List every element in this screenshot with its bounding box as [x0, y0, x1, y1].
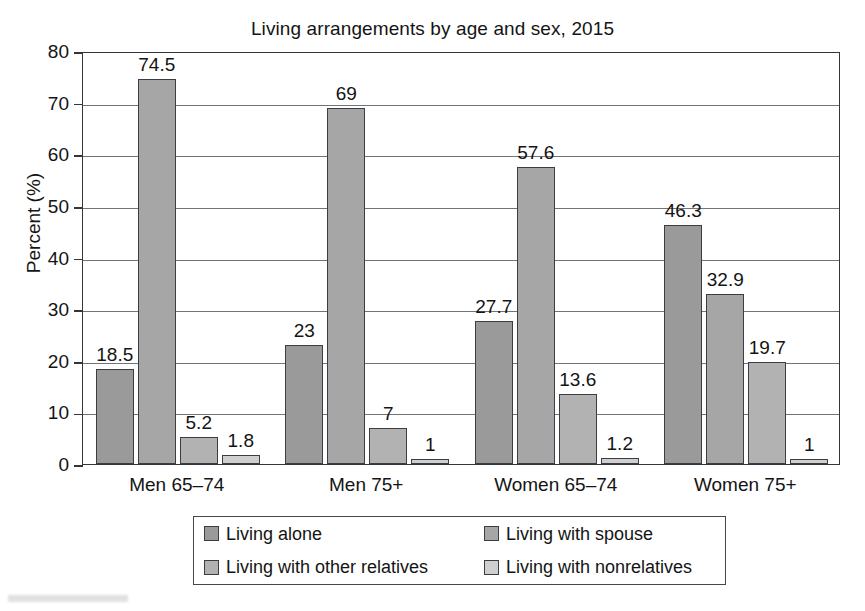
bar[interactable] [96, 369, 134, 465]
bar-value-label: 32.9 [707, 269, 744, 291]
bar-group-bars: 18.574.55.21.8 [96, 53, 260, 464]
bar-slot: 1.2 [601, 53, 639, 464]
legend-item-living-with-other-relatives[interactable]: Living with other relatives [204, 558, 484, 576]
legend-label-living-with-nonrelatives: Living with nonrelatives [506, 558, 692, 576]
bar-group: 236971 [285, 53, 449, 464]
bar-value-label: 18.5 [96, 344, 133, 366]
bar-slot: 74.5 [138, 53, 176, 464]
bar-slot: 27.7 [475, 53, 513, 464]
bar-group-bars: 236971 [285, 53, 449, 464]
bar-value-label: 1.2 [607, 433, 633, 455]
bar-value-label: 1 [804, 434, 815, 456]
legend-item-living-alone[interactable]: Living alone [204, 525, 484, 543]
bar[interactable] [369, 428, 407, 464]
bar-value-label: 19.7 [749, 337, 786, 359]
bar-group-bars: 46.332.919.71 [664, 53, 828, 464]
bar[interactable] [790, 459, 828, 464]
bar-slot: 19.7 [748, 53, 786, 464]
y-tick-label: 0 [13, 454, 69, 476]
plot-area: 0102030405060708018.574.55.21.823697127.… [82, 52, 840, 465]
x-category-label: Men 65–74 [82, 474, 272, 496]
scan-artifact [8, 595, 128, 602]
bar-slot: 23 [285, 53, 323, 464]
y-tick-label: 80 [13, 41, 69, 63]
y-tick-mark [74, 207, 83, 209]
y-tick-label: 10 [13, 402, 69, 424]
bar-value-label: 5.2 [186, 412, 212, 434]
bar-slot: 32.9 [706, 53, 744, 464]
bar-group: 27.757.613.61.2 [475, 53, 639, 464]
chart-legend: Living alone Living with spouse Living w… [193, 516, 726, 585]
bar-value-label: 13.6 [559, 369, 596, 391]
bar-group: 46.332.919.71 [664, 53, 828, 464]
legend-swatch-living-with-spouse [484, 526, 499, 541]
bar-group-bars: 27.757.613.61.2 [475, 53, 639, 464]
bar-value-label: 74.5 [138, 54, 175, 76]
bar-slot: 7 [369, 53, 407, 464]
legend-swatch-living-with-other-relatives [204, 560, 219, 575]
y-tick-label: 50 [13, 196, 69, 218]
bar[interactable] [138, 79, 176, 464]
bar[interactable] [222, 455, 260, 464]
bar[interactable] [475, 321, 513, 464]
y-tick-label: 60 [13, 144, 69, 166]
bar[interactable] [748, 362, 786, 464]
y-tick-mark [74, 52, 83, 54]
bar[interactable] [411, 459, 449, 464]
legend-swatch-living-with-nonrelatives [484, 560, 499, 575]
bar-slot: 5.2 [180, 53, 218, 464]
legend-item-living-with-spouse[interactable]: Living with spouse [484, 525, 737, 543]
bar-slot: 18.5 [96, 53, 134, 464]
bar-value-label: 46.3 [665, 200, 702, 222]
y-tick-mark [74, 155, 83, 157]
y-tick-label: 70 [13, 93, 69, 115]
x-category-label: Women 65–74 [461, 474, 651, 496]
x-category-label: Men 75+ [272, 474, 462, 496]
y-tick-mark [74, 465, 83, 467]
y-tick-label: 20 [13, 351, 69, 373]
y-tick-label: 30 [13, 299, 69, 321]
bar-slot: 1.8 [222, 53, 260, 464]
bar-value-label: 69 [336, 83, 357, 105]
bar-slot: 1 [411, 53, 449, 464]
bar[interactable] [559, 394, 597, 464]
bar-slot: 69 [327, 53, 365, 464]
chart-figure: Living arrangements by age and sex, 2015… [0, 0, 865, 611]
bar-value-label: 1.8 [228, 430, 254, 452]
y-tick-mark [74, 259, 83, 261]
bar[interactable] [664, 225, 702, 464]
bar-slot: 13.6 [559, 53, 597, 464]
y-tick-mark [74, 310, 83, 312]
bar-group: 18.574.55.21.8 [96, 53, 260, 464]
bar-value-label: 7 [383, 403, 394, 425]
bar[interactable] [601, 458, 639, 464]
y-tick-label: 40 [13, 248, 69, 270]
bar[interactable] [517, 167, 555, 464]
x-category-label: Women 75+ [651, 474, 841, 496]
chart-title: Living arrangements by age and sex, 2015 [0, 18, 865, 40]
legend-label-living-alone: Living alone [226, 525, 322, 543]
bar-value-label: 27.7 [475, 296, 512, 318]
y-tick-mark [74, 104, 83, 106]
bar-slot: 1 [790, 53, 828, 464]
bar-value-label: 23 [294, 320, 315, 342]
bar[interactable] [706, 294, 744, 464]
bar-value-label: 57.6 [517, 142, 554, 164]
legend-item-living-with-nonrelatives[interactable]: Living with nonrelatives [484, 558, 737, 576]
y-tick-mark [74, 362, 83, 364]
legend-swatch-living-alone [204, 526, 219, 541]
bar-slot: 46.3 [664, 53, 702, 464]
legend-label-living-with-spouse: Living with spouse [506, 525, 653, 543]
y-tick-mark [74, 414, 83, 416]
bar-value-label: 1 [425, 434, 436, 456]
bar[interactable] [180, 437, 218, 464]
legend-label-living-with-other-relatives: Living with other relatives [226, 558, 428, 576]
bar[interactable] [285, 345, 323, 464]
bar-slot: 57.6 [517, 53, 555, 464]
bar[interactable] [327, 108, 365, 464]
